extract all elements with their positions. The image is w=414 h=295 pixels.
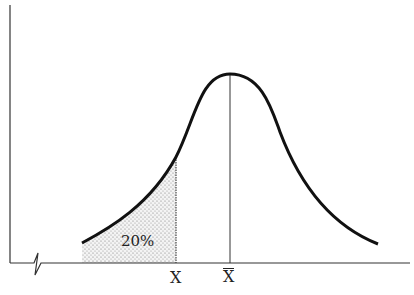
normal-curve-diagram	[0, 0, 414, 295]
mean-label: X	[223, 268, 234, 285]
x-axis	[10, 253, 410, 275]
x-label: X	[170, 268, 181, 287]
shaded-percent-label: 20%	[121, 232, 154, 250]
mean-label-text: X	[223, 267, 234, 286]
